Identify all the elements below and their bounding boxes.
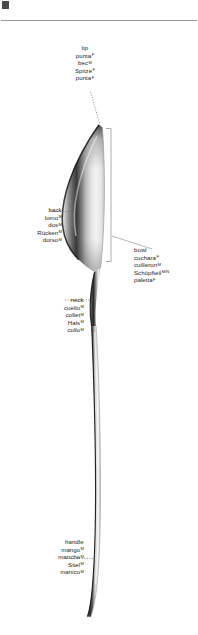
label-term: StielM bbox=[22, 561, 84, 569]
label-term: manicoM bbox=[22, 568, 84, 576]
gender-marker: M bbox=[81, 304, 84, 309]
label-group-back: back lomoM dosM RückenM dorsoM bbox=[6, 206, 62, 244]
gender-marker: M bbox=[59, 229, 62, 234]
bowl-bracket bbox=[106, 129, 111, 262]
gender-marker: M/N bbox=[162, 269, 170, 274]
gender-marker: F bbox=[153, 277, 156, 282]
gender-marker: M bbox=[81, 561, 84, 566]
label-term: neck bbox=[22, 296, 84, 304]
spoon-neck-shape bbox=[90, 268, 100, 326]
spoon-bowl-shape bbox=[62, 125, 104, 273]
label-term: SpitzeF bbox=[48, 67, 122, 75]
spoon-handle-shape bbox=[87, 326, 100, 617]
label-term: SchöpfteilM/N bbox=[134, 269, 196, 277]
label-term: handle bbox=[22, 538, 84, 546]
gender-marker: M bbox=[81, 546, 84, 551]
label-term: dosM bbox=[6, 221, 62, 229]
label-term: cucharaF bbox=[134, 254, 196, 262]
gender-marker: M bbox=[158, 262, 161, 267]
label-term: puntaF bbox=[48, 74, 122, 82]
label-term: bowl bbox=[134, 246, 196, 254]
gender-marker: M bbox=[59, 237, 62, 242]
label-group-bowl: bowl cucharaF cuilleronM SchöpfteilM/N p… bbox=[134, 246, 196, 284]
label-term: palettaF bbox=[134, 276, 196, 284]
gender-marker: M bbox=[81, 327, 84, 332]
gender-marker: F bbox=[156, 254, 159, 259]
gender-marker: M bbox=[81, 569, 84, 574]
gender-marker: M bbox=[59, 222, 62, 227]
gender-marker: M bbox=[81, 554, 84, 559]
label-group-handle: handle mangoM mancheM StielM manicoM bbox=[22, 538, 84, 576]
gender-marker: M bbox=[81, 312, 84, 317]
label-term: colletM bbox=[22, 311, 84, 319]
gender-marker: F bbox=[92, 52, 95, 57]
label-term: HalsM bbox=[22, 319, 84, 327]
label-term: cuilleronM bbox=[134, 261, 196, 269]
label-term: puntaF bbox=[48, 52, 122, 60]
label-term: tip bbox=[48, 44, 122, 52]
label-term: back bbox=[6, 206, 62, 214]
gender-marker: M bbox=[88, 60, 91, 65]
label-group-neck: neck cuelloM colletM HalsM colloM bbox=[22, 296, 84, 334]
label-term: mangoM bbox=[22, 546, 84, 554]
label-term: RückenM bbox=[6, 229, 62, 237]
label-group-tip: tip puntaF becM SpitzeF puntaF bbox=[48, 44, 122, 82]
label-term: becM bbox=[48, 59, 122, 67]
gender-marker: F bbox=[92, 75, 95, 80]
diagram-page: tip puntaF becM SpitzeF puntaF back lomo… bbox=[0, 0, 198, 635]
label-term: colloM bbox=[22, 326, 84, 334]
label-term: lomoM bbox=[6, 214, 62, 222]
label-term: mancheM bbox=[22, 553, 84, 561]
gender-marker: M bbox=[81, 319, 84, 324]
gender-marker: M bbox=[59, 214, 62, 219]
label-term: cuelloM bbox=[22, 304, 84, 312]
label-term: dorsoM bbox=[6, 236, 62, 244]
gender-marker: F bbox=[93, 67, 96, 72]
